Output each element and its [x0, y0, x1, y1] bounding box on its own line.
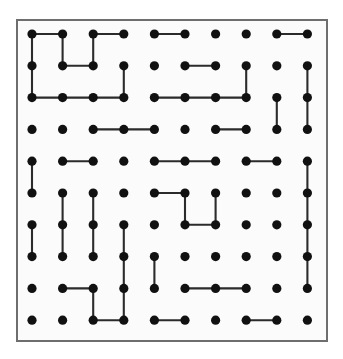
grid-dot: [58, 125, 67, 134]
grid-dot: [89, 252, 98, 261]
grid-dot: [150, 61, 159, 70]
grid-dot: [272, 252, 281, 261]
grid-dot: [150, 284, 159, 293]
grid-dot: [89, 316, 98, 325]
grid-dot: [180, 157, 189, 166]
grid-dot: [119, 61, 128, 70]
grid-dot: [89, 29, 98, 38]
edge-layer: [32, 34, 307, 320]
grid-dot: [58, 93, 67, 102]
grid-dot: [89, 125, 98, 134]
grid-dot: [272, 29, 281, 38]
dot-layer: [27, 29, 312, 324]
grid-dot: [180, 125, 189, 134]
grid-dot: [242, 157, 251, 166]
grid-dot: [27, 220, 36, 229]
dot-grid-svg: [18, 21, 326, 340]
grid-dot: [180, 316, 189, 325]
grid-dot: [119, 220, 128, 229]
grid-dot: [180, 284, 189, 293]
grid-dot: [180, 252, 189, 261]
grid-dot: [303, 93, 312, 102]
grid-dot: [58, 284, 67, 293]
grid-dot: [89, 157, 98, 166]
grid-dot: [242, 252, 251, 261]
grid-dot: [303, 284, 312, 293]
grid-dot: [303, 188, 312, 197]
grid-dot: [272, 220, 281, 229]
grid-dot: [150, 220, 159, 229]
grid-dot: [58, 188, 67, 197]
grid-dot: [150, 188, 159, 197]
grid-dot: [119, 252, 128, 261]
grid-dot: [119, 316, 128, 325]
grid-dot: [303, 220, 312, 229]
grid-dot: [303, 252, 312, 261]
grid-dot: [89, 61, 98, 70]
grid-dot: [180, 29, 189, 38]
grid-dot: [150, 125, 159, 134]
grid-dot: [27, 61, 36, 70]
grid-dot: [272, 93, 281, 102]
grid-dot: [150, 29, 159, 38]
grid-dot: [242, 93, 251, 102]
grid-dot: [89, 284, 98, 293]
grid-dot: [58, 29, 67, 38]
grid-dot: [242, 29, 251, 38]
grid-dot: [27, 125, 36, 134]
grid-dot: [58, 220, 67, 229]
grid-dot: [150, 157, 159, 166]
grid-dot: [242, 61, 251, 70]
grid-dot: [58, 316, 67, 325]
grid-dot: [150, 252, 159, 261]
grid-dot: [27, 252, 36, 261]
grid-dot: [150, 93, 159, 102]
grid-dot: [119, 125, 128, 134]
grid-dot: [211, 252, 220, 261]
grid-dot: [180, 93, 189, 102]
grid-dot: [27, 29, 36, 38]
grid-dot: [211, 284, 220, 293]
grid-dot: [119, 188, 128, 197]
grid-dot: [272, 157, 281, 166]
grid-dot: [242, 284, 251, 293]
grid-dot: [27, 188, 36, 197]
grid-dot: [303, 125, 312, 134]
figure-canvas: [0, 0, 343, 359]
grid-dot: [58, 157, 67, 166]
grid-dot: [119, 284, 128, 293]
grid-dot: [89, 220, 98, 229]
grid-dot: [272, 316, 281, 325]
grid-dot: [211, 157, 220, 166]
grid-dot: [180, 220, 189, 229]
grid-dot: [211, 93, 220, 102]
grid-dot: [119, 93, 128, 102]
grid-dot: [89, 93, 98, 102]
grid-dot: [303, 29, 312, 38]
grid-dot: [242, 125, 251, 134]
grid-dot: [27, 316, 36, 325]
grid-dot: [272, 188, 281, 197]
grid-dot: [303, 157, 312, 166]
grid-dot: [150, 316, 159, 325]
grid-dot: [58, 61, 67, 70]
grid-dot: [58, 252, 67, 261]
grid-dot: [303, 61, 312, 70]
grid-dot: [27, 157, 36, 166]
grid-dot: [303, 316, 312, 325]
grid-dot: [211, 316, 220, 325]
grid-dot: [180, 61, 189, 70]
grid-dot: [211, 61, 220, 70]
grid-dot: [89, 188, 98, 197]
grid-dot: [27, 93, 36, 102]
grid-dot: [211, 220, 220, 229]
grid-dot: [119, 29, 128, 38]
dot-grid-panel: [16, 19, 328, 342]
grid-dot: [272, 125, 281, 134]
grid-dot: [180, 188, 189, 197]
grid-dot: [211, 125, 220, 134]
grid-dot: [211, 29, 220, 38]
grid-dot: [27, 284, 36, 293]
grid-dot: [242, 316, 251, 325]
grid-dot: [242, 220, 251, 229]
